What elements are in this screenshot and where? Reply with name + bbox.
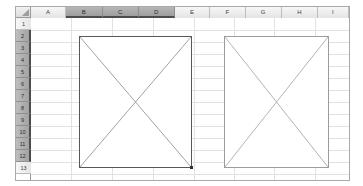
column-header-i[interactable]: I <box>318 7 349 18</box>
column-header-e[interactable]: E <box>175 7 210 18</box>
row-header-2[interactable]: 2 <box>16 30 31 42</box>
row-header-8[interactable]: 8 <box>16 102 31 114</box>
row-header-5[interactable]: 5 <box>16 66 31 78</box>
placeholder-cross-icon <box>225 37 328 167</box>
column-header-d[interactable]: D <box>139 7 175 18</box>
column-header-b[interactable]: B <box>66 7 102 18</box>
row-header-column: 12345678910111213 <box>16 18 31 180</box>
placeholder-cross-icon <box>80 37 191 167</box>
grid-row-line <box>31 30 349 31</box>
column-header-row: ABCDEFGHI <box>31 7 349 18</box>
resize-handle-bottom-right[interactable] <box>190 166 193 169</box>
row-header-12[interactable]: 12 <box>16 150 31 162</box>
select-all-triangle-icon <box>22 9 29 16</box>
row-header-4[interactable]: 4 <box>16 54 31 66</box>
select-all-corner-button[interactable] <box>16 7 31 18</box>
column-header-a[interactable]: A <box>31 7 66 18</box>
row-header-7[interactable]: 7 <box>16 90 31 102</box>
spreadsheet-frame: ABCDEFGHI 12345678910111213 <box>15 6 350 181</box>
row-header-3[interactable]: 3 <box>16 42 31 54</box>
image-placeholder-left[interactable] <box>79 36 192 168</box>
image-placeholder-right[interactable] <box>224 36 329 168</box>
cell-grid[interactable] <box>31 18 349 180</box>
grid-row-line <box>31 174 349 175</box>
column-header-f[interactable]: F <box>210 7 245 18</box>
spreadsheet-screenshot: ABCDEFGHI 12345678910111213 <box>0 0 363 186</box>
row-header-10[interactable]: 10 <box>16 126 31 138</box>
row-header-6[interactable]: 6 <box>16 78 31 90</box>
row-header-1[interactable]: 1 <box>16 18 31 30</box>
row-header-9[interactable]: 9 <box>16 114 31 126</box>
column-header-g[interactable]: G <box>246 7 282 18</box>
column-header-h[interactable]: H <box>282 7 318 18</box>
row-header-11[interactable]: 11 <box>16 138 31 150</box>
row-header-13[interactable]: 13 <box>16 162 31 174</box>
column-header-c[interactable]: C <box>103 7 139 18</box>
